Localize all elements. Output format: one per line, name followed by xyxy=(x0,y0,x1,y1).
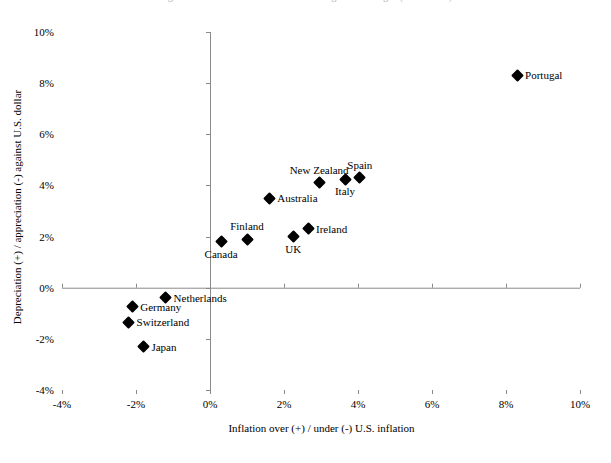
scatter-chart-figure: Figure: Inflation differentials and exch… xyxy=(0,0,611,463)
data-point-marker xyxy=(241,233,254,246)
data-point-marker xyxy=(511,69,524,82)
data-point-layer: PortugalSpainItalyNew ZealandAustraliaIr… xyxy=(0,0,611,463)
data-point-label: Portugal xyxy=(525,70,562,81)
data-point-marker xyxy=(353,171,366,184)
data-point-marker xyxy=(122,316,135,329)
data-point-label: Spain xyxy=(347,160,372,171)
data-point-label: Ireland xyxy=(316,223,347,234)
data-point-marker xyxy=(126,301,139,314)
data-point-marker xyxy=(302,223,315,236)
data-point-label: Australia xyxy=(277,193,317,204)
data-point-marker xyxy=(313,176,326,189)
data-point-label: Finland xyxy=(230,221,264,232)
data-point-label: Japan xyxy=(151,341,176,352)
data-point-label: Canada xyxy=(205,249,238,260)
data-point-label: Netherlands xyxy=(174,292,227,303)
x-axis-title: Inflation over (+) / under (-) U.S. infl… xyxy=(62,422,581,434)
data-point-label: UK xyxy=(285,244,301,255)
data-point-label: New Zealand xyxy=(290,165,349,176)
data-point-marker xyxy=(215,235,228,248)
data-point-marker xyxy=(263,192,276,205)
data-point-label: Germany xyxy=(140,301,181,312)
data-point-marker xyxy=(137,340,150,353)
data-point-marker xyxy=(287,230,300,243)
y-axis-title: Depreciation (+) / appreciation (-) agai… xyxy=(8,7,26,407)
data-point-label: Switzerland xyxy=(137,317,190,328)
data-point-label: Italy xyxy=(335,186,355,197)
